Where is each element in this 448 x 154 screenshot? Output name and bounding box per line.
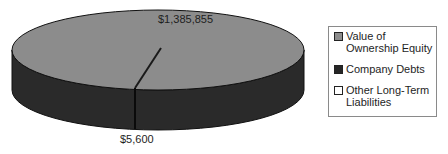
legend-item-equity: Value of Ownership Equity (334, 30, 436, 54)
data-label-debts: $5,600 (120, 133, 154, 145)
legend-label: Other Long-Term Liabilities (346, 84, 436, 108)
legend-swatch-debts (334, 65, 343, 74)
legend-label: Company Debts (346, 63, 425, 75)
legend: Value of Ownership Equity Company Debts … (328, 26, 437, 117)
legend-item-debts: Company Debts (334, 63, 436, 75)
legend-item-other-liabilities: Other Long-Term Liabilities (334, 84, 436, 108)
legend-label: Value of Ownership Equity (346, 30, 436, 54)
legend-swatch-other (334, 86, 343, 95)
data-label-equity: $1,385,855 (158, 13, 213, 25)
legend-swatch-equity (334, 32, 343, 41)
